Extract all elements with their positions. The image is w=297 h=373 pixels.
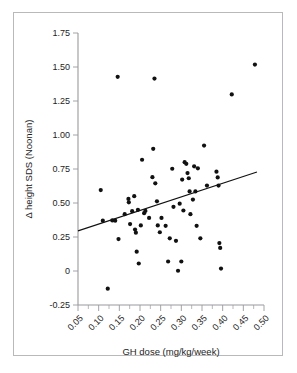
data-point [188, 189, 192, 193]
data-point [127, 200, 131, 204]
data-point [101, 219, 105, 223]
x-tick-label: 0.50 [252, 313, 271, 332]
data-point [174, 239, 178, 243]
data-point [137, 261, 141, 265]
y-tick-labels: -0.2500.250.500.751.001.251.501.75 [49, 28, 70, 310]
x-tick-label: 0.20 [128, 313, 147, 332]
data-point [191, 198, 195, 202]
y-tick-label: -0.25 [49, 300, 70, 310]
data-point [147, 216, 151, 220]
data-point [164, 224, 168, 228]
data-point [158, 230, 162, 234]
y-tick-label: 0.75 [52, 164, 70, 174]
data-point [132, 194, 136, 198]
data-point [134, 231, 138, 235]
y-tick-label: 1.25 [52, 96, 70, 106]
data-point [99, 188, 103, 192]
data-point [130, 209, 134, 213]
y-tick-label: 1.00 [52, 130, 70, 140]
x-tick-label: 0.25 [148, 313, 167, 332]
data-point [198, 236, 202, 240]
data-point [135, 250, 139, 254]
figure-root: -0.2500.250.500.751.001.251.501.75 0.050… [0, 0, 297, 373]
data-point [155, 199, 159, 203]
x-tick-label: 0.45 [231, 313, 250, 332]
data-point [128, 222, 132, 226]
data-point [196, 166, 200, 170]
x-tick-label: 0.40 [210, 313, 229, 332]
x-tick-label: 0.10 [86, 313, 105, 332]
x-axis-title: GH dose (mg/kg/week) [122, 346, 219, 357]
data-point [151, 147, 155, 151]
data-point [181, 208, 185, 212]
data-point [178, 202, 182, 206]
data-points [99, 62, 257, 290]
regression-trend-line [78, 172, 257, 231]
y-tick-label: 0.50 [52, 198, 70, 208]
data-point [153, 181, 157, 185]
x-tick-label: 0.15 [107, 313, 126, 332]
data-point [166, 259, 170, 263]
data-point [179, 259, 183, 263]
data-point [218, 246, 222, 250]
data-point [123, 212, 127, 216]
data-point [180, 178, 184, 182]
data-point [152, 76, 156, 80]
y-tick-label: 0 [65, 266, 70, 276]
data-point [143, 209, 147, 213]
data-point [187, 176, 191, 180]
x-minor-tick-marks [88, 305, 253, 309]
data-point [168, 236, 172, 240]
data-point [156, 223, 160, 227]
x-tick-label: 0.05 [66, 313, 85, 332]
data-point [170, 167, 174, 171]
data-point [230, 92, 234, 96]
data-point [171, 205, 175, 209]
data-point [106, 287, 110, 291]
data-point [193, 189, 197, 193]
data-point [214, 170, 218, 174]
data-point [195, 224, 199, 228]
data-point [217, 241, 221, 245]
data-point [253, 62, 257, 66]
data-point [192, 164, 196, 168]
y-tick-label: 1.50 [52, 62, 70, 72]
data-point [205, 183, 209, 187]
data-point [188, 212, 192, 216]
data-point [150, 175, 154, 179]
data-point [116, 237, 120, 241]
x-tick-labels: 0.050.100.150.200.250.300.350.400.450.50 [66, 313, 271, 332]
data-point [184, 162, 188, 166]
data-point [176, 269, 180, 273]
scatter-plot: -0.2500.250.500.751.001.251.501.75 0.050… [0, 0, 297, 373]
y-tick-label: 1.75 [52, 28, 70, 38]
data-point [159, 216, 163, 220]
data-point [202, 144, 206, 148]
x-tick-label: 0.35 [190, 313, 209, 332]
y-tick-label: 0.25 [52, 232, 70, 242]
data-point [116, 75, 120, 79]
x-tick-label: 0.30 [169, 313, 188, 332]
y-axis-title: Δ height SDS (Noonan) [23, 120, 34, 219]
data-point [136, 208, 140, 212]
data-point [139, 223, 143, 227]
data-point [140, 158, 144, 162]
data-point [185, 171, 189, 175]
data-point [216, 175, 220, 179]
y-tick-marks [73, 33, 78, 305]
data-point [113, 219, 117, 223]
data-point [216, 183, 220, 187]
data-point [219, 266, 223, 270]
